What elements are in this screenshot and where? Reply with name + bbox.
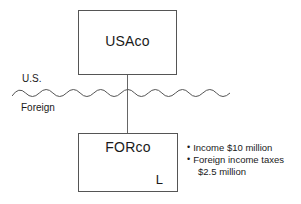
wavy-border-divider-icon xyxy=(12,82,230,104)
forco-entity-box: FORco L xyxy=(78,133,178,192)
bullet-icon: • xyxy=(187,154,190,165)
forco-annotation-label: L xyxy=(156,172,163,187)
list-item: • Income $10 million xyxy=(187,142,299,153)
note-text: Foreign income taxes xyxy=(193,154,299,165)
note-continuation-text: $2.5 million xyxy=(187,166,299,177)
forco-label: FORco xyxy=(79,139,177,155)
notes-list: • Income $10 million • Foreign income ta… xyxy=(187,142,299,177)
us-region-label: U.S. xyxy=(22,73,41,84)
note-text: Income $10 million xyxy=(193,142,299,153)
usaco-label: USAco xyxy=(79,33,176,49)
list-item: • Foreign income taxes xyxy=(187,154,299,165)
diagram-canvas: USAco U.S. Foreign FORco L • Income $10 … xyxy=(0,0,301,204)
bullet-icon: • xyxy=(187,142,190,153)
usaco-entity-box: USAco xyxy=(78,10,177,75)
foreign-region-label: Foreign xyxy=(21,102,55,113)
